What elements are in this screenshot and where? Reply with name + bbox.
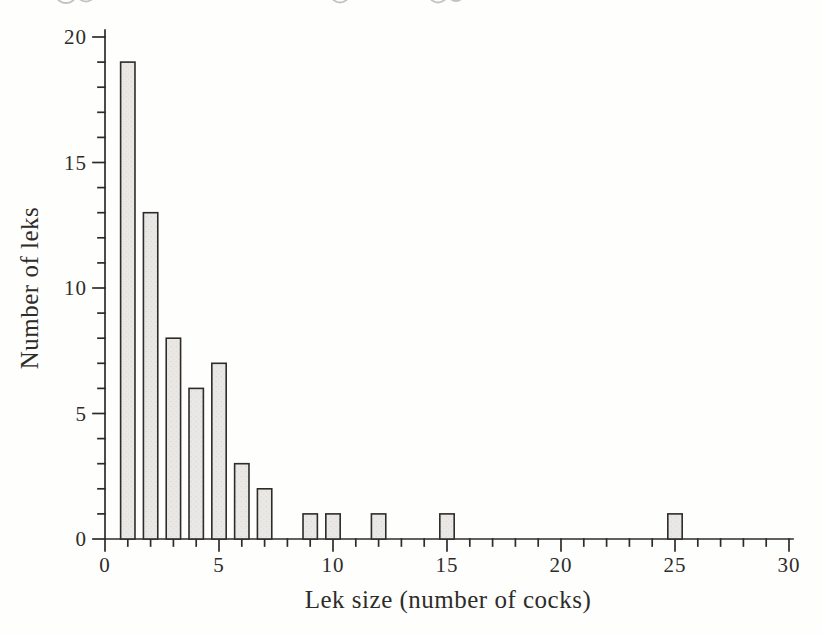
bar-x12 [371, 514, 385, 539]
scan-artifact [449, 0, 463, 1]
y-tick-label: 15 [64, 151, 87, 175]
x-tick-label: 15 [436, 553, 459, 577]
bar-x5 [212, 363, 226, 539]
bar-x9 [303, 514, 317, 539]
y-tick-label: 5 [76, 402, 88, 426]
x-tick-label: 25 [664, 553, 687, 577]
scan-artifact [57, 0, 75, 3]
x-tick-label: 30 [778, 553, 801, 577]
histogram-chart: 05101520253005101520 Lek size (number of… [0, 0, 822, 635]
bar-x3 [166, 338, 180, 539]
bar-x6 [235, 464, 249, 539]
scan-artifacts [57, 0, 463, 3]
bar-x10 [326, 514, 340, 539]
bar-x25 [668, 514, 682, 539]
x-tick-label: 10 [322, 553, 345, 577]
x-tick-label: 5 [213, 553, 225, 577]
x-tick-label: 20 [550, 553, 573, 577]
y-axis-title: Number of leks [16, 207, 43, 370]
bar-x2 [143, 213, 157, 539]
bar-x15 [440, 514, 454, 539]
scan-artifact [78, 0, 94, 2]
lek-size-histogram-figure: 05101520253005101520 Lek size (number of… [0, 0, 822, 635]
x-axis-title: Lek size (number of cocks) [305, 586, 592, 614]
x-tick-label: 0 [99, 553, 111, 577]
bar-x1 [121, 62, 135, 539]
scan-artifact [430, 0, 446, 3]
scan-artifact [332, 0, 348, 3]
bar-x4 [189, 388, 203, 539]
y-tick-label: 20 [64, 25, 87, 49]
y-tick-label: 0 [76, 527, 88, 551]
bar-x7 [257, 489, 271, 539]
y-tick-label: 10 [64, 276, 87, 300]
